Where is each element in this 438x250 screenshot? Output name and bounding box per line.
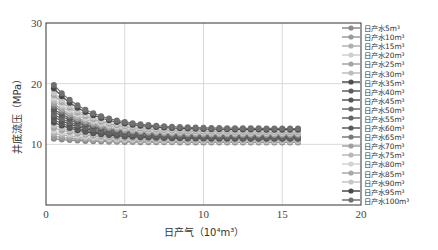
x-axis-label: 日产气（10⁴m³） <box>164 226 244 238</box>
data-point <box>98 113 104 119</box>
data-point <box>82 107 88 113</box>
data-point <box>264 125 270 131</box>
legend-marker-icon <box>340 142 362 150</box>
y-axis-label: 井底流压（MPa） <box>11 74 23 154</box>
data-point <box>271 125 277 131</box>
legend-marker-icon <box>340 178 362 186</box>
legend-marker-icon <box>340 60 362 68</box>
data-point <box>130 120 136 126</box>
data-point <box>161 123 167 129</box>
legend-marker-icon <box>340 69 362 77</box>
data-point <box>208 125 214 131</box>
x-tick-label: 10 <box>198 208 210 220</box>
data-point <box>216 125 222 131</box>
data-point <box>185 124 191 130</box>
data-point <box>256 125 262 131</box>
data-point <box>153 123 159 129</box>
legend-label: 日产水100m³ <box>364 195 409 206</box>
data-point <box>248 125 254 131</box>
data-point <box>138 121 144 127</box>
data-point <box>193 125 199 131</box>
data-point <box>114 117 120 123</box>
legend: 日产水5m³日产水10m³日产水15m³日产水20m³日产水25m³日产水30m… <box>340 23 409 205</box>
y-axis-ticks: 102030 <box>31 17 43 150</box>
legend-marker-icon <box>340 196 362 204</box>
data-point <box>51 82 57 88</box>
x-tick-label: 0 <box>43 208 49 220</box>
data-point <box>90 110 96 116</box>
data-point <box>67 97 73 103</box>
legend-marker-icon <box>340 169 362 177</box>
legend-marker-icon <box>340 151 362 159</box>
data-point <box>240 125 246 131</box>
legend-marker-icon <box>340 105 362 113</box>
data-point <box>75 102 81 108</box>
legend-marker-icon <box>340 87 362 95</box>
legend-marker-icon <box>340 24 362 32</box>
x-tick-label: 20 <box>356 208 368 220</box>
data-point <box>59 90 65 96</box>
legend-marker-icon <box>340 51 362 59</box>
legend-marker-icon <box>340 124 362 132</box>
legend-marker-icon <box>340 114 362 122</box>
data-point <box>201 125 207 131</box>
data-point <box>224 125 230 131</box>
data-point <box>295 125 301 131</box>
series-layer <box>51 82 301 146</box>
y-tick-label: 30 <box>31 17 43 29</box>
data-point <box>232 125 238 131</box>
data-point <box>177 124 183 130</box>
legend-marker-icon <box>340 96 362 104</box>
legend-item: 日产水100m³ <box>340 196 409 205</box>
data-point <box>106 115 112 121</box>
data-point <box>169 124 175 130</box>
legend-marker-icon <box>340 187 362 195</box>
legend-marker-icon <box>340 42 362 50</box>
legend-marker-icon <box>340 133 362 141</box>
legend-marker-icon <box>340 78 362 86</box>
legend-marker-icon <box>340 33 362 41</box>
data-point <box>122 119 128 125</box>
data-point <box>145 122 151 128</box>
data-point <box>287 125 293 131</box>
y-tick-label: 20 <box>31 78 43 90</box>
data-point <box>279 125 285 131</box>
y-tick-label: 10 <box>31 138 43 150</box>
x-tick-label: 15 <box>277 208 289 220</box>
x-axis-ticks: 05101520 <box>43 208 367 220</box>
legend-marker-icon <box>340 160 362 168</box>
x-tick-label: 5 <box>122 208 128 220</box>
